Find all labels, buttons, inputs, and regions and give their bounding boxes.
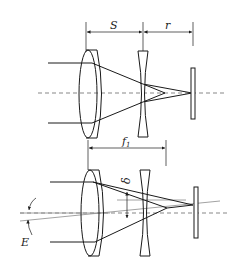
angle-arrow — [28, 220, 32, 235]
detector-plate — [191, 68, 195, 119]
optical-system-diagram: S r f1 — [0, 0, 243, 278]
ray — [92, 102, 143, 123]
angle-arrow — [29, 198, 36, 210]
label-f1: f1 — [121, 135, 131, 149]
label-delta: δ — [120, 177, 133, 184]
ray — [143, 84, 192, 93]
ray — [143, 93, 192, 102]
bottom-panel: f1 δ E — [20, 135, 228, 256]
concave-lens — [138, 51, 148, 137]
ray — [143, 93, 165, 102]
detector-plate — [194, 187, 198, 238]
label-S: S — [110, 19, 118, 32]
label-r: r — [165, 19, 171, 32]
ray — [143, 84, 165, 93]
ray — [92, 63, 143, 84]
top-panel: S r — [38, 19, 226, 138]
ray — [93, 182, 167, 208]
ray — [167, 205, 193, 208]
label-E: E — [20, 236, 29, 249]
